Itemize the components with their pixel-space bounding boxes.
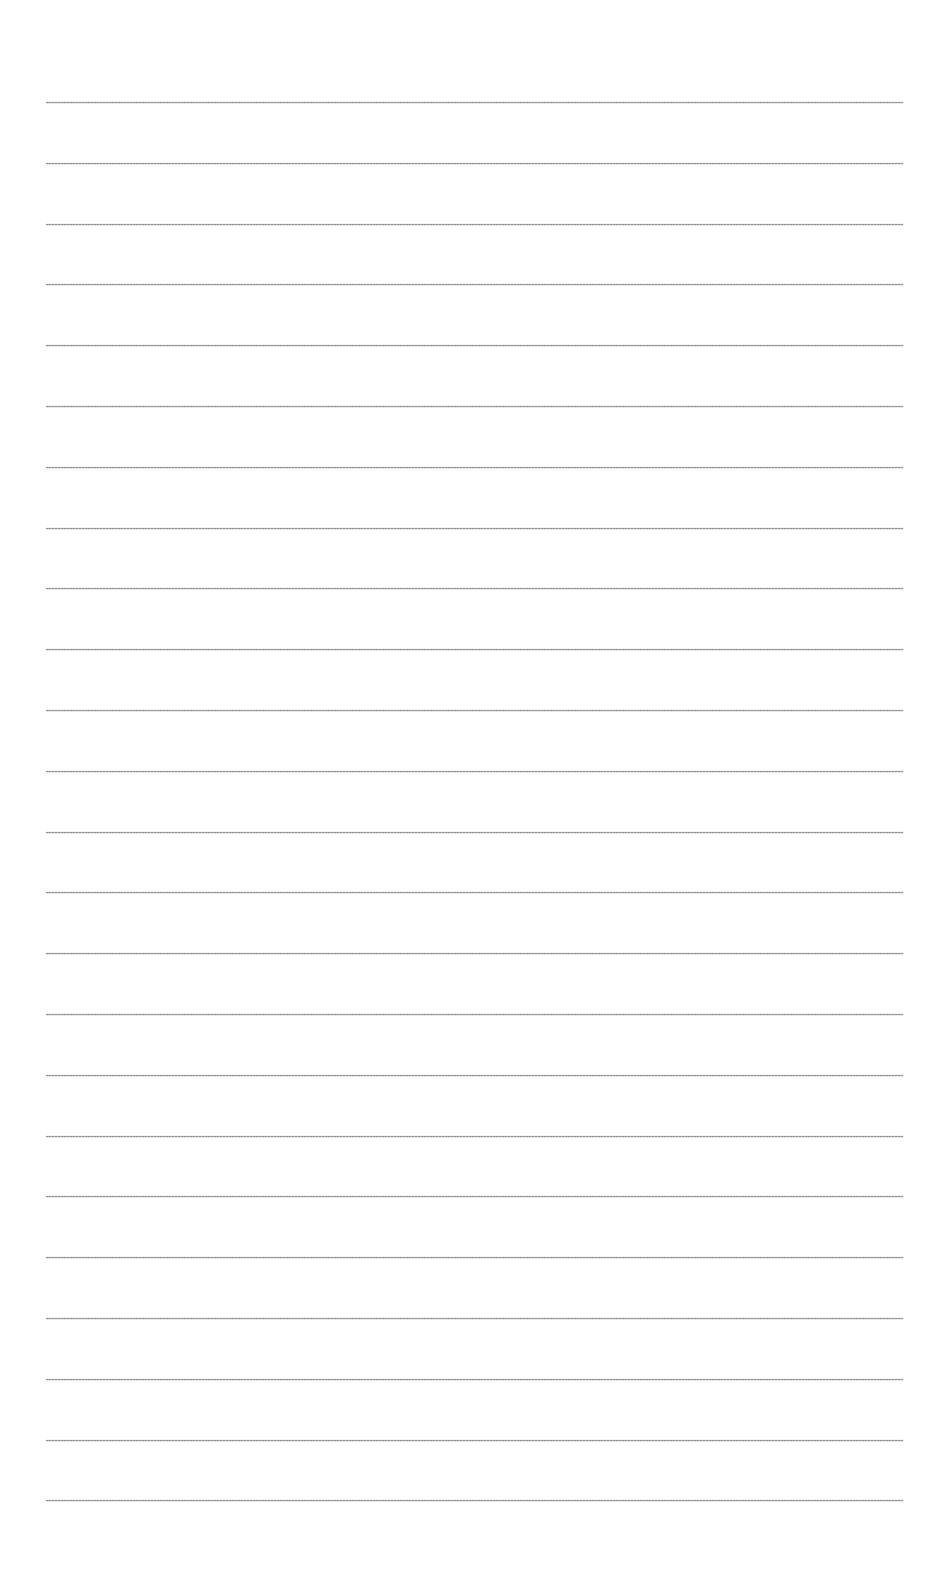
ruled-line [46,467,903,468]
ruled-line [46,1136,903,1137]
ruled-line [46,345,903,346]
ruled-line [46,102,903,103]
ruled-line [46,1500,903,1501]
ruled-line [46,1318,903,1319]
ruled-line [46,1075,903,1076]
ruled-line [46,284,903,285]
ruled-line [46,832,903,833]
ruled-line [46,528,903,529]
ruled-line [46,1196,903,1197]
ruled-line [46,771,903,772]
ruled-line [46,953,903,954]
ruled-line [46,1014,903,1015]
ruled-line [46,224,903,225]
ruled-line [46,710,903,711]
ruled-line [46,406,903,407]
ruled-line [46,1440,903,1441]
ruled-line [46,649,903,650]
ruled-line [46,588,903,589]
ruled-line [46,1257,903,1258]
lined-paper-page [0,0,947,1578]
ruled-line [46,1379,903,1380]
ruled-line [46,163,903,164]
ruled-line [46,892,903,893]
